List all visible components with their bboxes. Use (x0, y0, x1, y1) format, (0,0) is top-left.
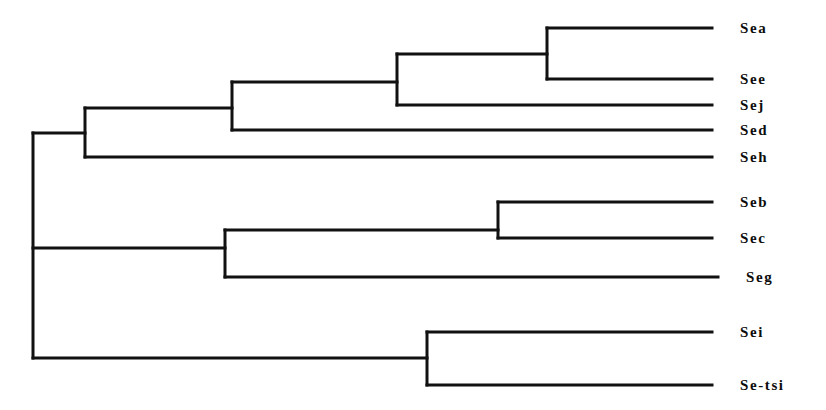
tip-label-sei: Sei (740, 325, 764, 340)
tip-label-sea: Sea (740, 21, 767, 36)
tip-label-sec: Sec (740, 231, 766, 246)
tip-label-sej: Sej (740, 98, 765, 113)
tip-label-see: See (740, 72, 766, 87)
dendrogram-tree-lines (0, 0, 826, 410)
tip-label-seh: Seh (740, 150, 768, 165)
dendrogram-figure: SeaSeeSejSedSehSebSecSegSeiSe-tsi (0, 0, 826, 410)
tip-label-sed: Sed (740, 123, 768, 138)
tip-label-se-tsi: Se-tsi (740, 378, 785, 393)
tip-label-seg: Seg (746, 270, 773, 285)
tip-label-seb: Seb (740, 195, 768, 210)
